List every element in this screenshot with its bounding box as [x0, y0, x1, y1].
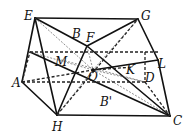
label-c: C [173, 114, 182, 128]
label-e: E [23, 9, 33, 23]
label-g: G [141, 9, 151, 23]
label-b: B [71, 27, 81, 41]
label-o: O [88, 70, 98, 84]
label-a: A [11, 76, 21, 90]
label-b-prime: B' [99, 95, 112, 109]
label-h: H [51, 120, 63, 134]
dashed-edges [22, 19, 170, 116]
diagram-canvas: E G B F M O K L D A H C B' [0, 0, 186, 139]
geometry-figure: E G B F M O K L D A H C B' [0, 0, 186, 139]
label-l: L [157, 57, 166, 71]
label-m: M [54, 55, 68, 69]
label-f: F [85, 31, 95, 45]
label-d: D [144, 71, 155, 85]
label-k: K [125, 63, 136, 77]
